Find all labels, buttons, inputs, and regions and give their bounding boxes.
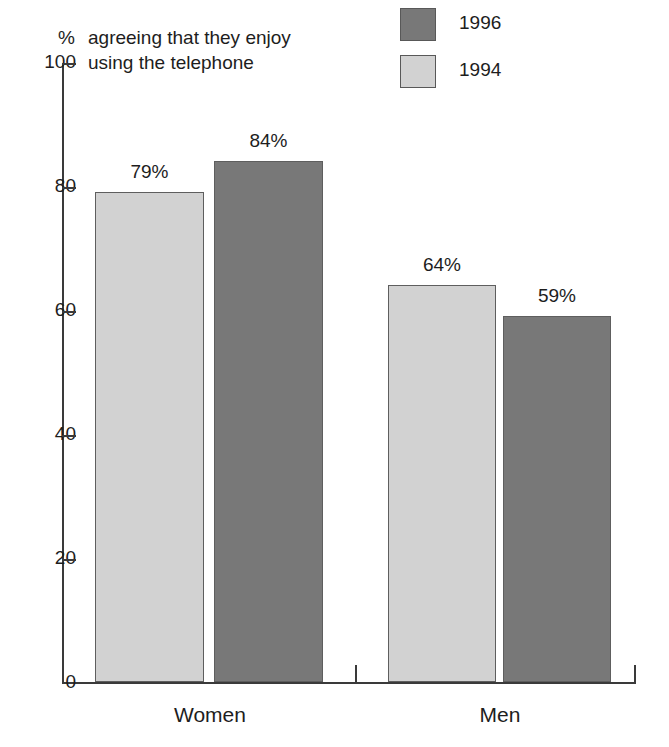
y-tick-mark-20 [62,559,76,561]
bar-value-men-1994: 64% [388,254,496,276]
bar-chart: % agreeing that they enjoyusing the tele… [0,0,669,747]
chart-title: agreeing that they enjoyusing the teleph… [88,25,291,75]
y-tick-label-100: 100 [24,51,76,73]
bar-men-1994 [388,285,496,682]
bar-value-men-1996: 59% [503,285,611,307]
y-tick-label-20: 20 [24,547,76,569]
y-tick-mark-60 [62,311,76,313]
bar-value-women-1994: 79% [95,161,204,183]
bar-women-1996 [214,161,323,682]
chart-title-line-2: using the telephone [88,52,254,73]
y-tick-mark-100 [62,63,76,65]
y-tick-mark-80 [62,187,76,189]
y-tick-40: 40 [0,435,76,437]
y-tick-label-40: 40 [24,423,76,445]
y-tick-60: 60 [0,311,76,313]
x-axis-label-women: Women [140,703,280,727]
bar-men-1996 [503,316,611,682]
y-tick-label-80: 80 [24,175,76,197]
y-tick-20: 20 [0,559,76,561]
x-axis-end-tick [634,665,636,683]
y-tick-label-0: 0 [24,671,76,693]
legend-swatch-1994 [400,55,436,88]
legend-label-1994: 1994 [459,59,501,81]
y-tick-100: 100 [0,63,76,65]
y-tick-mark-40 [62,435,76,437]
legend-swatch-1996 [400,8,436,41]
x-axis-group-separator-tick [355,665,357,683]
x-axis-label-men: Men [430,703,570,727]
y-axis-line [62,63,64,684]
bar-women-1994 [95,192,204,682]
legend-label-1996: 1996 [459,12,501,34]
y-tick-80: 80 [0,187,76,189]
y-tick-label-60: 60 [24,299,76,321]
y-tick-0: 0 [0,683,76,685]
y-axis-unit-label: % [58,25,75,50]
x-axis-line [62,682,636,684]
chart-title-line-1: agreeing that they enjoy [88,27,291,48]
bar-value-women-1996: 84% [214,130,323,152]
